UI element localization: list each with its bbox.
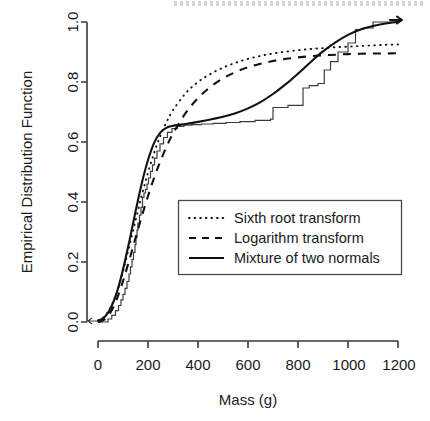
x-tick-label: 800 [285, 356, 310, 373]
y-tick-label: 1.0 [64, 12, 81, 33]
logarithm-curve [98, 53, 398, 322]
ecdf-plot: 1.0 0.8 0.6 0.4 0.2 0.0 Empirical Distri… [0, 0, 430, 421]
mixture-curve [98, 22, 398, 321]
legend-label-sixth-root: Sixth root transform [234, 210, 361, 226]
chart-page: 1.0 0.8 0.6 0.4 0.2 0.0 Empirical Distri… [0, 0, 430, 421]
y-tick-label: 0.4 [64, 192, 81, 213]
legend: Sixth root transform Logarithm transform… [179, 201, 402, 275]
x-axis-line [98, 341, 398, 348]
ecdf-step-curve [98, 22, 398, 322]
y-tick-label: 0.2 [64, 252, 81, 273]
y-axis-title: Empirical Distribution Function [18, 71, 35, 274]
x-tick-label: 200 [135, 356, 160, 373]
y-tick-label: 0.8 [64, 72, 81, 93]
data-curves [98, 22, 398, 322]
x-tick-label: 1200 [382, 356, 415, 373]
x-tick-label: 0 [94, 356, 102, 373]
y-tick-label: 0.6 [64, 132, 81, 153]
x-tick-label: 1000 [332, 356, 365, 373]
legend-label-logarithm: Logarithm transform [234, 230, 364, 246]
legend-label-mixture: Mixture of two normals [234, 250, 380, 266]
x-tick-label: 400 [185, 356, 210, 373]
y-axis-line [81, 22, 87, 322]
x-tick-label: 600 [235, 356, 260, 373]
ecdf-left-arrow [88, 318, 98, 324]
x-axis-title: Mass (g) [219, 391, 277, 408]
y-tick-label: 0.0 [64, 312, 81, 333]
